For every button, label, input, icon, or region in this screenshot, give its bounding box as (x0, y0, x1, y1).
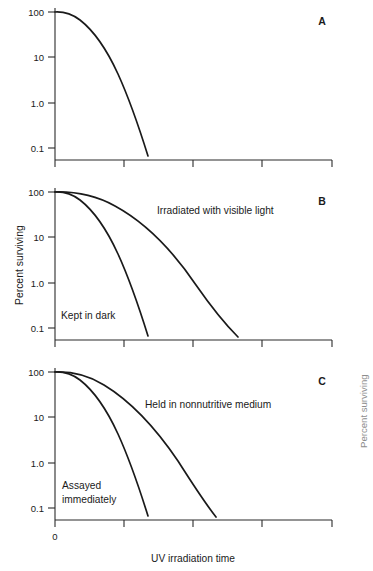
label-assayed-immediately-line2: immediately (62, 494, 117, 505)
panel-c-ylabel-1: 1.0 (31, 458, 44, 469)
panel-b-ylabel-100: 100 (28, 187, 44, 198)
panel-a-ylabel-100: 100 (28, 7, 44, 18)
label-kept-in-dark: Kept in dark (61, 310, 116, 321)
panel-c-ylabel-0.1: 0.1 (31, 503, 44, 514)
x-axis-title: UV irradiation time (151, 553, 235, 564)
panel-a: 100 10 1.0 0.1 A (0, 0, 373, 180)
panel-a-ylabel-10: 10 (33, 52, 44, 63)
panel-b-ylabel-10: 10 (33, 232, 44, 243)
label-assayed-immediately-line1: Assayed (62, 480, 101, 491)
curve-uv-survival (55, 12, 148, 156)
label-held-nonnutritive-medium: Held in nonnutritive medium (145, 399, 271, 410)
clipped-neighbor-region: Percent surviving (352, 330, 373, 450)
label-irradiated-visible-light: Irradiated with visible light (157, 205, 274, 216)
panel-b-ylabel-1: 1.0 (31, 278, 44, 289)
uv-survival-figure: 100 10 1.0 0.1 A 100 10 1.0 0 (0, 0, 373, 571)
x-origin-label: 0 (52, 531, 57, 542)
panel-a-letter: A (318, 15, 326, 27)
panel-b-ylabel-0.1: 0.1 (31, 323, 44, 334)
clipped-neighbor-label: Percent surviving (358, 374, 369, 448)
panel-c: 100 10 1.0 0.1 0 Held in nonnutritive me… (0, 360, 373, 571)
panel-c-letter: C (318, 375, 326, 387)
panel-c-ylabel-10: 10 (33, 412, 44, 423)
y-axis-title: Percent surviving (14, 225, 25, 305)
panel-c-ylabel-100: 100 (28, 367, 44, 378)
panel-a-ylabel-1: 1.0 (31, 98, 44, 109)
panel-b: 100 10 1.0 0.1 Irradiated with visible l… (0, 180, 373, 360)
panel-a-ylabel-0.1: 0.1 (31, 143, 44, 154)
panel-b-letter: B (318, 195, 326, 207)
